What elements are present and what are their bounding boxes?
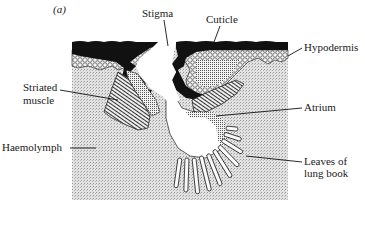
- striated-muscle-label-2: muscle: [23, 95, 54, 106]
- cuticle-leader: [214, 26, 220, 42]
- atrium-label: Atrium: [304, 102, 336, 113]
- stigma-label: Stigma: [142, 8, 173, 19]
- leaves-label-2: lung book: [304, 168, 348, 179]
- panel-label: (a): [53, 3, 66, 15]
- lung-book-diagram: [0, 0, 365, 228]
- hypodermis-leader: [288, 48, 302, 56]
- hypodermis-label: Hypodermis: [304, 42, 358, 53]
- haemolymph-label: Haemolymph: [2, 142, 62, 153]
- leaves-label-1: Leaves of: [304, 156, 347, 167]
- striated-muscle-label-1: Striated: [23, 82, 57, 93]
- cuticle-label: Cuticle: [206, 14, 238, 25]
